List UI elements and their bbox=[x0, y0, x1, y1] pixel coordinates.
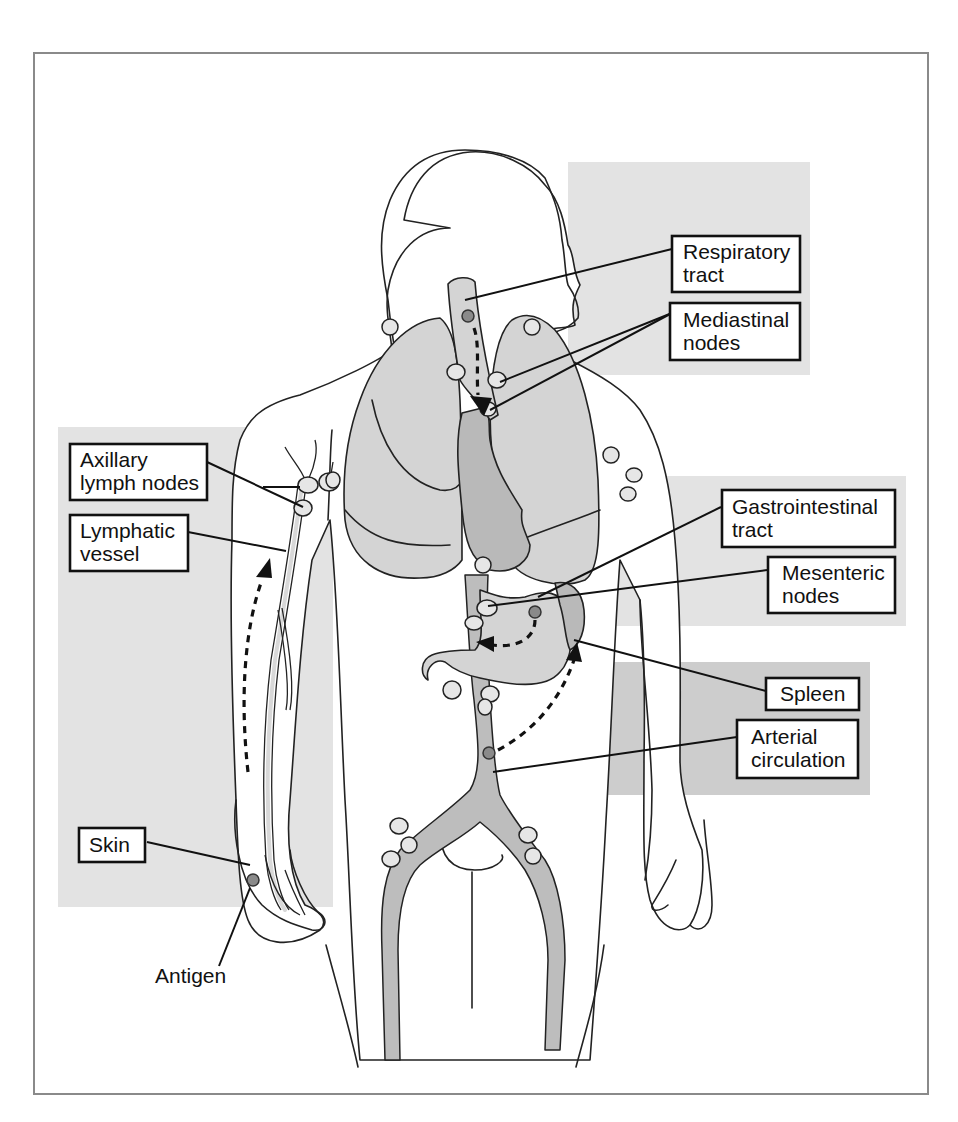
antigen-respiratory bbox=[462, 310, 474, 322]
label-line: Arterial bbox=[751, 725, 818, 748]
right-axillary-node bbox=[620, 487, 636, 501]
label-line: Mesenteric bbox=[782, 561, 885, 584]
label-line: Mediastinal bbox=[683, 308, 789, 331]
label-line: Spleen bbox=[780, 682, 845, 705]
cervical-node bbox=[382, 319, 398, 335]
label-line: Gastrointestinal bbox=[732, 495, 878, 518]
antigen-skin bbox=[247, 874, 259, 886]
label-respiratory-tract: Respiratory tract bbox=[672, 236, 800, 292]
para-aortic-node bbox=[478, 699, 492, 715]
label-mediastinal-nodes: Mediastinal nodes bbox=[670, 303, 800, 360]
left-side-node bbox=[326, 472, 340, 488]
label-line: nodes bbox=[683, 331, 740, 354]
inguinal-node bbox=[525, 848, 541, 864]
label-axillary-lymph-nodes: Axillary lymph nodes bbox=[70, 444, 207, 500]
mesenteric-node bbox=[465, 616, 483, 630]
label-line: tract bbox=[683, 263, 724, 286]
inguinal-node bbox=[401, 837, 417, 853]
label-gastrointestinal-tract: Gastrointestinal tract bbox=[722, 490, 895, 547]
cervical-node bbox=[524, 319, 540, 335]
inguinal-node bbox=[519, 827, 537, 843]
label-mesenteric-nodes: Mesenteric nodes bbox=[768, 557, 895, 613]
inguinal-node bbox=[382, 851, 400, 867]
label-arterial-circulation: Arterial circulation bbox=[737, 720, 858, 778]
axillary-node bbox=[294, 500, 312, 516]
mediastinal-node bbox=[447, 364, 465, 380]
axillary-node bbox=[298, 477, 318, 493]
label-line: circulation bbox=[751, 748, 846, 771]
label-line: Axillary bbox=[80, 448, 148, 471]
label-line: vessel bbox=[80, 542, 140, 565]
antigen-arterial bbox=[483, 747, 495, 759]
label-line: lymph nodes bbox=[80, 471, 199, 494]
label-lymphatic-vessel: Lymphatic vessel bbox=[70, 515, 188, 571]
label-line: Skin bbox=[89, 833, 130, 856]
para-aortic-node bbox=[443, 681, 461, 699]
label-antigen: Antigen bbox=[155, 964, 226, 987]
label-line: Lymphatic bbox=[80, 519, 175, 542]
label-line: tract bbox=[732, 518, 773, 541]
antigen-gi bbox=[529, 606, 541, 618]
label-spleen: Spleen bbox=[766, 678, 859, 710]
inguinal-node bbox=[390, 818, 408, 834]
label-line: nodes bbox=[782, 584, 839, 607]
right-axillary-node bbox=[603, 447, 619, 463]
label-skin: Skin bbox=[79, 828, 145, 862]
label-line: Respiratory bbox=[683, 240, 791, 263]
lymphatic-antigen-diagram: Respiratory tract Mediastinal nodes Axil… bbox=[0, 0, 958, 1122]
right-axillary-node bbox=[626, 468, 642, 482]
mesenteric-node bbox=[477, 600, 497, 616]
mesenteric-node bbox=[475, 557, 491, 573]
